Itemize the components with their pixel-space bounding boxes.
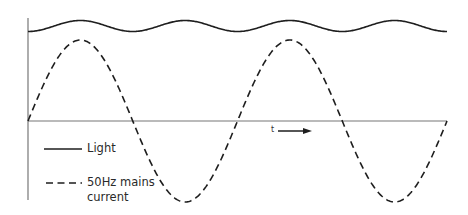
legend-label-light: Light — [87, 141, 116, 155]
legend-label-current-line2: current — [87, 190, 129, 204]
light-vs-mains-current-diagram — [0, 0, 468, 215]
legend-label-current-line1: 50Hz mains — [87, 175, 155, 189]
time-axis-label: t — [271, 125, 274, 135]
light-waveform — [28, 21, 447, 32]
time-arrow-head-icon — [303, 128, 312, 134]
